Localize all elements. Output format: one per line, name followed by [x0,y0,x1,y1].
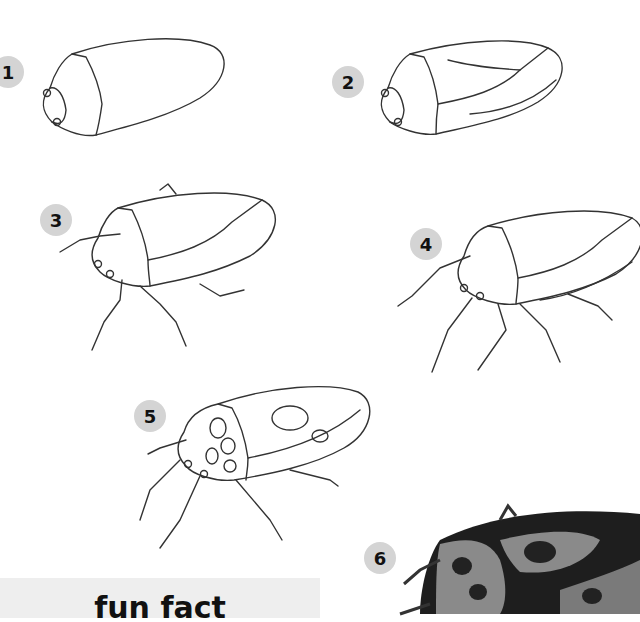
fun-fact-title: fun fact [0,590,320,622]
